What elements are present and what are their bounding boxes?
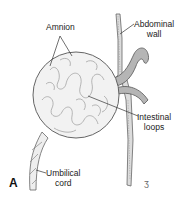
artist-signature: ʒ xyxy=(144,178,149,188)
panel-letter: A xyxy=(9,176,18,190)
amnion-sac xyxy=(33,52,119,138)
omphalocele-diagram: Amnion Abdominal wall Intestinal loops U… xyxy=(0,0,195,210)
label-umbilical-cord: Umbilical cord xyxy=(46,168,80,188)
label-abdominal-wall: Abdominal wall xyxy=(134,19,174,39)
label-amnion: Amnion xyxy=(46,22,75,32)
label-intestinal-loops: Intestinal loops xyxy=(137,112,171,132)
